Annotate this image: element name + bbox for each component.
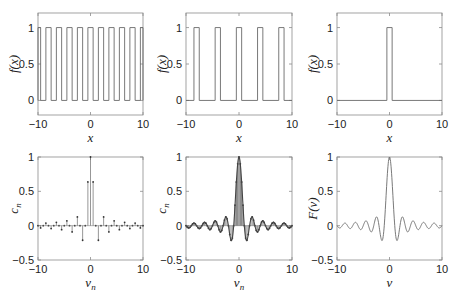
subplot-p6: −0.500.51−10010νF(ν)	[305, 151, 448, 290]
x-axis-label-sub: n	[91, 282, 96, 292]
y-axis-label: F(ν)	[305, 197, 320, 220]
stem-marker	[139, 227, 141, 229]
stem-marker	[40, 227, 42, 229]
y-tick-label: 0	[28, 94, 34, 106]
pulse-curve	[38, 28, 143, 101]
x-tick-label: 0	[386, 263, 392, 275]
x-tick-label: 0	[87, 263, 93, 275]
subplot-p1: 00.51−10010xf(x)	[6, 13, 149, 145]
subplot-p5: −0.500.51−10010νncn	[154, 151, 298, 292]
x-tick-label: −10	[328, 118, 347, 130]
y-tick-label: 0.5	[19, 185, 34, 197]
axes-box	[38, 13, 143, 115]
stem-marker	[118, 229, 120, 231]
x-tick-label: −10	[177, 118, 196, 130]
stem-marker	[108, 231, 110, 233]
y-axis-label: cn	[6, 203, 23, 214]
y-tick-label: 1	[176, 151, 182, 163]
x-tick-label: −10	[177, 263, 196, 275]
stem-marker	[134, 222, 136, 224]
subplot-p4: −0.500.51−10010νncn	[6, 151, 149, 292]
axes-box	[186, 13, 292, 115]
x-tick-label: 10	[286, 263, 298, 275]
x-axis-label: x	[87, 130, 94, 145]
y-tick-label: 1	[28, 151, 34, 163]
stem-marker	[87, 181, 89, 183]
y-axis-label: f(x)	[154, 55, 169, 73]
x-tick-label: −10	[29, 118, 48, 130]
stem-marker	[103, 216, 105, 218]
y-tick-label: 1	[176, 22, 182, 34]
stem-marker	[61, 229, 63, 231]
x-axis-label: νn	[234, 275, 245, 292]
stem-marker	[113, 220, 115, 222]
y-tick-label: 0.5	[318, 185, 333, 197]
stem-marker	[55, 221, 57, 223]
x-axis-label: ν	[387, 275, 393, 290]
y-tick-label: 0	[327, 94, 333, 106]
x-axis-label: νn	[85, 275, 96, 292]
y-tick-label: 0	[327, 220, 333, 232]
x-tick-label: −10	[29, 263, 48, 275]
y-tick-label: 0	[176, 220, 182, 232]
x-tick-label: 0	[236, 118, 242, 130]
transform-curve	[337, 157, 442, 241]
y-tick-label: 0	[28, 220, 34, 232]
stem-marker	[90, 156, 92, 158]
y-axis-label-sub: n	[13, 203, 23, 208]
y-tick-label: 0	[176, 94, 182, 106]
x-axis-label: x	[235, 130, 242, 145]
axes-box	[337, 13, 442, 115]
x-tick-label: 10	[436, 118, 448, 130]
stem-marker	[50, 228, 52, 230]
subplot-p2: 00.51−10010xf(x)	[154, 13, 298, 145]
y-tick-label: 1	[327, 22, 333, 34]
pulse-curve	[186, 28, 292, 101]
stem-marker	[45, 222, 47, 224]
stem-marker	[76, 216, 78, 218]
stem-marker	[97, 239, 99, 241]
x-tick-label: −10	[328, 263, 347, 275]
x-tick-label: 10	[137, 263, 149, 275]
y-tick-label: 1	[28, 22, 34, 34]
x-tick-label: 10	[286, 118, 298, 130]
y-axis-label-sub: n	[161, 203, 171, 208]
y-axis-label: f(x)	[305, 55, 320, 73]
x-tick-label: 0	[236, 263, 242, 275]
x-tick-label: 0	[87, 118, 93, 130]
figure: 00.51−10010xf(x)00.51−10010xf(x)00.51−10…	[0, 0, 454, 296]
x-tick-label: 10	[436, 263, 448, 275]
stem-marker	[129, 228, 131, 230]
stem-marker	[124, 221, 126, 223]
x-axis-label-sub: n	[240, 282, 245, 292]
y-tick-label: 1	[327, 151, 333, 163]
pulse-curve	[337, 28, 442, 101]
stem-marker	[82, 239, 84, 241]
x-axis-label: x	[386, 130, 393, 145]
x-tick-label: 10	[137, 118, 149, 130]
stem-marker	[92, 181, 94, 183]
y-tick-label: 0.5	[167, 185, 182, 197]
x-tick-label: 0	[386, 118, 392, 130]
y-axis-label: cn	[154, 203, 171, 214]
axes-box	[337, 157, 442, 260]
stem-marker	[71, 231, 73, 233]
subplot-p3: 00.51−10010xf(x)	[305, 13, 448, 145]
y-axis-label: f(x)	[6, 55, 21, 73]
stem-marker	[66, 220, 68, 222]
